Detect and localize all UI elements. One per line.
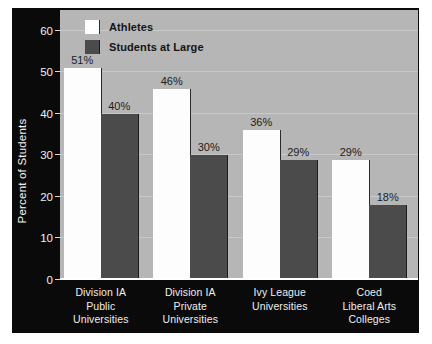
x-axis-category-label: CoedLiberal ArtsColleges	[325, 286, 415, 327]
plot-area: 51%40%46%30%36%29%29%18% Athletes Studen…	[60, 10, 418, 280]
bar-value-label: 46%	[161, 75, 183, 87]
bar-value-label: 40%	[108, 100, 130, 112]
x-axis-category-label: Ivy LeagueUniversities	[235, 286, 325, 313]
bar-athletes: 29%	[332, 160, 370, 280]
legend-label-students-at-large: Students at Large	[109, 41, 204, 53]
y-axis-ticks: 0102030405060	[12, 8, 60, 333]
y-axis-tick-label: 10	[12, 232, 60, 244]
bar-athletes: 46%	[153, 89, 191, 280]
y-axis-tick-label: 20	[12, 191, 60, 203]
bar-value-label: 36%	[250, 116, 272, 128]
legend-item-athletes: Athletes	[85, 18, 204, 35]
y-axis-tick-label: 60	[12, 25, 60, 37]
bar-value-label: 29%	[340, 146, 362, 158]
bar-students-at-large: 29%	[280, 160, 318, 280]
x-axis-category-line: Public	[56, 300, 146, 314]
bar-students-at-large: 18%	[369, 205, 407, 280]
gridline	[60, 71, 418, 72]
x-axis-category-line: Ivy League	[235, 286, 325, 300]
x-axis-category-line: Universities	[146, 313, 236, 327]
x-axis-category-line: Division IA	[146, 286, 236, 300]
bar-students-at-large: 30%	[190, 155, 228, 280]
chart-panel: Percent of Students 0102030405060 51%40%…	[12, 8, 419, 333]
bar-value-label: 30%	[198, 141, 220, 153]
bar-students-at-large: 40%	[101, 114, 139, 280]
legend-label-athletes: Athletes	[109, 21, 153, 33]
y-axis-tick-label: 50	[12, 66, 60, 78]
x-axis-category-line: Colleges	[325, 313, 415, 327]
x-axis-category-label: Division IAPrivateUniversities	[146, 286, 236, 327]
x-axis-category-line: Division IA	[56, 286, 146, 300]
y-axis-tick-label: 0	[12, 274, 60, 286]
legend: Athletes Students at Large	[85, 18, 204, 58]
x-axis-category-line: Coed	[325, 286, 415, 300]
legend-item-students-at-large: Students at Large	[85, 38, 204, 55]
legend-swatch-students-at-large	[85, 40, 100, 54]
x-axis-category-line: Liberal Arts	[325, 300, 415, 314]
bar-athletes: 51%	[64, 68, 102, 280]
bar-chart-figure: Percent of Students 0102030405060 51%40%…	[0, 0, 432, 344]
x-axis-baseline	[60, 278, 418, 280]
bar-value-label: 18%	[377, 191, 399, 203]
bar-athletes: 36%	[243, 130, 281, 280]
y-axis-tick-label: 30	[12, 149, 60, 161]
x-axis-category-label: Division IAPublicUniversities	[56, 286, 146, 327]
x-axis-category-line: Private	[146, 300, 236, 314]
x-axis-category-line: Universities	[56, 313, 146, 327]
x-axis-labels: Division IAPublicUniversitiesDivision IA…	[60, 282, 418, 332]
x-axis-category-line: Universities	[235, 300, 325, 314]
bar-value-label: 29%	[287, 146, 309, 158]
legend-swatch-athletes	[85, 20, 100, 34]
y-axis-tick-label: 40	[12, 108, 60, 120]
